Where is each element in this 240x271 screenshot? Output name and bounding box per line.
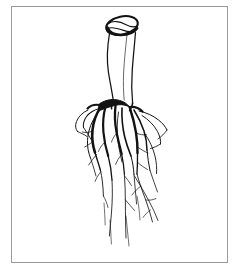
lateral-root-R1-tail <box>137 153 138 174</box>
illustration-figure <box>0 0 240 271</box>
root-drawing-canvas <box>0 0 240 271</box>
figure-background <box>0 0 240 271</box>
